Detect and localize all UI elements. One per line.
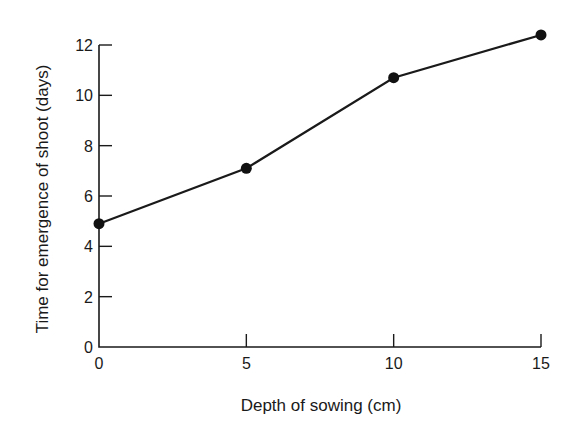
y-tick-label: 8 — [84, 138, 93, 155]
y-tick-label: 10 — [75, 87, 93, 104]
y-tick-label: 0 — [84, 339, 93, 356]
data-point-marker — [536, 29, 547, 40]
line-chart: 024681012 051015 Depth of sowing (cm) Ti… — [0, 0, 576, 436]
y-tick-label: 2 — [84, 289, 93, 306]
y-tick-label: 12 — [75, 37, 93, 54]
chart-axes — [99, 45, 541, 347]
data-point-marker — [241, 163, 252, 174]
x-axis-ticks: 051015 — [95, 334, 550, 372]
data-point-marker — [94, 218, 105, 229]
data-series-line — [99, 35, 541, 224]
y-axis-ticks: 024681012 — [75, 37, 112, 356]
data-point-marker — [388, 72, 399, 83]
x-tick-label: 10 — [385, 355, 403, 372]
x-axis-title: Depth of sowing (cm) — [241, 396, 402, 415]
x-tick-label: 15 — [532, 355, 550, 372]
x-tick-label: 5 — [242, 355, 251, 372]
y-tick-label: 4 — [84, 238, 93, 255]
x-tick-label: 0 — [95, 355, 104, 372]
y-axis-title: Time for emergence of shoot (days) — [33, 65, 52, 334]
y-tick-label: 6 — [84, 188, 93, 205]
